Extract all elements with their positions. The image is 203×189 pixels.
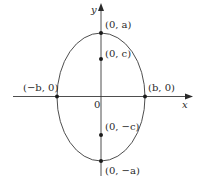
left-vertex-dot [55, 95, 59, 99]
bottom-vertex-dot [99, 159, 103, 163]
lower-focus-dot [99, 133, 103, 137]
origin-label: 0 [94, 99, 100, 110]
y-axis-label: y [90, 4, 97, 15]
top-vertex-dot [99, 31, 103, 35]
upper-focus-dot [99, 57, 103, 61]
upper-focus-label: (0, c) [105, 48, 131, 59]
ellipse-diagram: x y 0 (0, a) (0, c) (0, −c) (0, −a) (−b,… [0, 0, 203, 189]
top-vertex-label: (0, a) [105, 19, 132, 30]
bottom-vertex-label: (0, −a) [105, 165, 140, 176]
lower-focus-label: (0, −c) [105, 121, 140, 132]
y-axis-arrow-icon [98, 3, 104, 11]
right-vertex-dot [143, 95, 147, 99]
right-vertex-label: (b, 0) [148, 82, 175, 93]
x-axis-label: x [182, 99, 188, 110]
left-vertex-label: (−b, 0) [23, 82, 58, 93]
